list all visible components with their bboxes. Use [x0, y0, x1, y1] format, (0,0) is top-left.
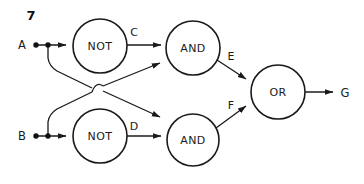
junction-dot-b-terminal: [33, 133, 38, 138]
junction-dot-a-branch: [45, 42, 50, 47]
gate-not-b-label: NOT: [88, 130, 113, 143]
wire-label-c: C: [130, 26, 138, 39]
wire-label-f: F: [228, 99, 234, 112]
wire-hop-arc: [92, 84, 103, 92]
figure-number: 7: [26, 8, 35, 23]
junction-dot-b-branch: [45, 133, 50, 138]
wire-label-d: D: [130, 120, 138, 133]
output-label-g: G: [341, 86, 350, 100]
gate-and-top-label: AND: [180, 42, 205, 55]
gate-and-bottom-label: AND: [180, 134, 205, 147]
gate-or-label: OR: [269, 86, 286, 99]
gate-not-a-label: NOT: [88, 40, 113, 53]
input-label-a: A: [18, 38, 26, 52]
input-label-b: B: [18, 129, 26, 143]
wire-label-e: E: [228, 50, 235, 63]
wire-e-to-or: [217, 60, 246, 79]
junction-dot-a-terminal: [33, 42, 38, 47]
logic-circuit-figure: NOT NOT AND AND OR A B G C D E F 7: [0, 0, 364, 184]
circuit-canvas: NOT NOT AND AND OR A B G C D E F 7: [0, 0, 364, 184]
